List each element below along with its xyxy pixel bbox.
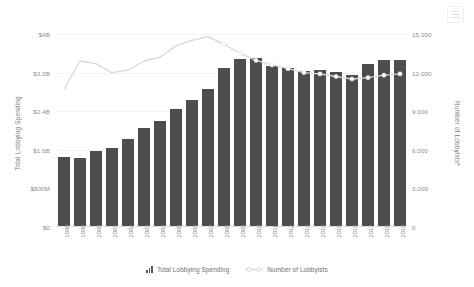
line-marker-icon [245, 266, 263, 273]
y-axis-right-tick: 0 [412, 224, 456, 231]
x-axis-tick-label: 2004 [160, 224, 166, 237]
x-axis-tick-label: 2001 [112, 224, 118, 237]
x-axis-tick-label: 2009 [240, 224, 246, 237]
legend-item-spending[interactable]: Total Lobbying Spending [146, 266, 229, 273]
x-tick-cell: 2010 [248, 229, 264, 259]
plot-area [56, 34, 408, 227]
lobbyists-line [64, 37, 400, 90]
x-axis-tick-label: 2003 [144, 224, 150, 237]
x-axis-tick-label: 2016 [352, 224, 358, 237]
y-axis-left-tick: $4B [6, 31, 50, 38]
x-tick-cell: 2011 [264, 229, 280, 259]
line-data-point[interactable] [302, 71, 306, 75]
x-axis-tick-label: 2011 [272, 225, 278, 238]
legend-label-lobbyists: Number of Lobbyists [267, 266, 328, 273]
y-axis-left-tick: $0 [6, 224, 50, 231]
line-data-point[interactable] [318, 72, 322, 76]
x-axis-tick-label: 2007 [208, 224, 214, 237]
x-axis-tick-label: 2000 [96, 224, 102, 237]
x-tick-cell: 2003 [136, 229, 152, 259]
y-axis-right-tick: 15,000 [412, 31, 456, 38]
x-axis-tick-label: 2005 [176, 224, 182, 237]
bar-chart-icon [146, 266, 153, 273]
x-tick-cell: 2001 [104, 229, 120, 259]
chart-legend: Total Lobbying Spending Number of Lobbyi… [0, 266, 474, 273]
y-axis-right-title: Number of Lobbyists* [454, 79, 461, 189]
x-axis-tick-label: 2014 [320, 224, 326, 237]
x-tick-cell: 2018 [376, 229, 392, 259]
x-tick-cell: 2002 [120, 229, 136, 259]
x-tick-cell: 2006 [184, 229, 200, 259]
y-axis-right-tick: 12,000 [412, 69, 456, 76]
y-axis-left-tick: $3.2B [6, 69, 50, 76]
legend-item-lobbyists[interactable]: Number of Lobbyists [245, 266, 328, 273]
line-data-point[interactable] [254, 58, 258, 62]
x-axis-tick-label: 1998 [64, 224, 70, 237]
line-data-point[interactable] [270, 63, 274, 67]
x-axis-tick-label: 2019 [400, 224, 406, 237]
x-tick-cell: 2016 [344, 229, 360, 259]
x-axis-labels: 1998199920002001200220032004200520062007… [56, 229, 408, 259]
x-tick-cell: 2013 [296, 229, 312, 259]
x-axis-tick-label: 2017 [368, 224, 374, 237]
line-data-point[interactable] [334, 74, 338, 78]
y-axis-right-tick: 3,000 [412, 185, 456, 192]
x-tick-cell: 2009 [232, 229, 248, 259]
line-data-point[interactable] [238, 51, 242, 55]
x-axis-tick-label: 2010 [256, 224, 262, 237]
x-axis-tick-label: 2006 [192, 224, 198, 237]
x-tick-cell: 1998 [56, 229, 72, 259]
x-axis-tick-label: 2015 [336, 224, 342, 237]
x-tick-cell: 2012 [280, 229, 296, 259]
x-tick-cell: 1999 [72, 229, 88, 259]
line-data-point[interactable] [222, 42, 226, 46]
x-tick-cell: 2005 [168, 229, 184, 259]
lobbyists-line-series [56, 34, 408, 227]
x-tick-cell: 2015 [328, 229, 344, 259]
menu-icon-line [451, 11, 460, 12]
y-axis-left-title: Total Lobbying Spending [14, 79, 21, 189]
menu-icon-line [451, 17, 460, 18]
lobbying-spending-chart: $0$800M$1.6B$2.4B$3.2B$4B 03,0006,0009,0… [0, 0, 474, 287]
legend-label-spending: Total Lobbying Spending [157, 266, 229, 273]
line-data-point[interactable] [350, 77, 354, 81]
x-axis-tick-label: 2012 [288, 224, 294, 237]
line-data-point[interactable] [382, 73, 386, 77]
x-axis-tick-label: 2018 [384, 224, 390, 237]
chart-menu-button[interactable] [447, 6, 464, 23]
y-axis-right-tick: 6,000 [412, 146, 456, 153]
x-tick-cell: 2019 [392, 229, 408, 259]
line-data-point[interactable] [286, 67, 290, 71]
x-axis-tick-label: 2013 [304, 224, 310, 237]
x-tick-cell: 2000 [88, 229, 104, 259]
x-tick-cell: 2007 [200, 229, 216, 259]
y-axis-right-tick: 9,000 [412, 108, 456, 115]
x-tick-cell: 2017 [360, 229, 376, 259]
x-axis-tick-label: 2002 [128, 224, 134, 237]
line-data-point[interactable] [398, 72, 402, 76]
x-axis-tick-label: 1999 [80, 224, 86, 237]
x-axis-tick-label: 2008 [224, 224, 230, 237]
menu-icon-line [451, 14, 460, 15]
x-tick-cell: 2008 [216, 229, 232, 259]
x-tick-cell: 2014 [312, 229, 328, 259]
x-tick-cell: 2004 [152, 229, 168, 259]
line-data-point[interactable] [366, 76, 370, 80]
